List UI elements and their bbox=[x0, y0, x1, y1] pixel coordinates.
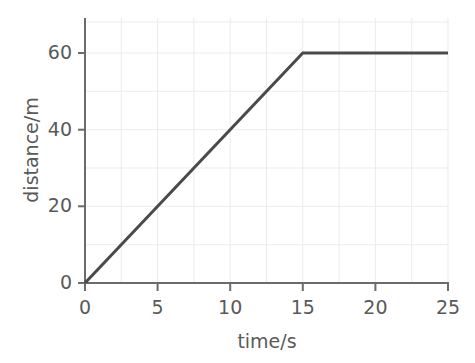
x-tick-label-20: 20 bbox=[363, 296, 387, 318]
x-axis-ticks bbox=[85, 283, 448, 291]
x-tick-label-15: 15 bbox=[291, 296, 315, 318]
y-axis-ticks bbox=[78, 53, 85, 283]
x-axis-title: time/s bbox=[237, 330, 296, 352]
x-tick-label-0: 0 bbox=[79, 296, 91, 318]
x-tick-label-25: 25 bbox=[436, 296, 460, 318]
x-tick-label-5: 5 bbox=[152, 296, 164, 318]
x-tick-label-10: 10 bbox=[218, 296, 242, 318]
distance-time-chart: 0 20 40 60 0 5 10 15 20 25 time/s distan… bbox=[0, 0, 475, 363]
y-axis-title: distance/m bbox=[20, 97, 42, 202]
